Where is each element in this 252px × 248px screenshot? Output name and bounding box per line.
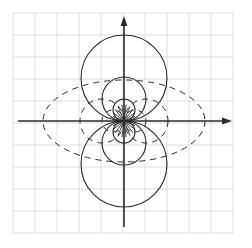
math-diagram-figure — [0, 0, 252, 248]
diagram-canvas — [0, 0, 252, 248]
